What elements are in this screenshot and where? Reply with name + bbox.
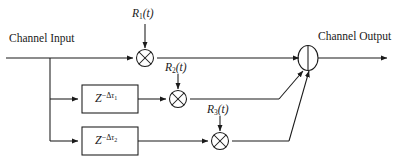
r1-label: R1(t) (132, 8, 154, 21)
delay2-exponent: −Δτ2 (102, 133, 118, 142)
delay1-exp-sign: −Δ (102, 91, 112, 100)
channel-input-label: Channel Input (9, 33, 74, 45)
delay-block-1-label: Z−Δτ1 (95, 92, 117, 104)
r3-symbol: R (207, 103, 214, 115)
wire-mult2-diagonal-to-sum (279, 71, 303, 99)
delay1-base: Z (95, 91, 102, 105)
channel-output-label: Channel Output (318, 31, 391, 43)
channel-model-diagram: Channel Input Channel Output R1(t) R2(t)… (0, 0, 409, 164)
diagram-canvas (0, 0, 409, 164)
delay2-exp-sign: −Δ (102, 133, 112, 142)
wire-mult3-diagonal-to-sum (289, 71, 309, 141)
r3-argument: (t) (218, 103, 229, 115)
delay2-exp-subscript: 2 (114, 137, 117, 143)
delay-block-2-label: Z−Δτ2 (95, 134, 117, 146)
delay2-base: Z (95, 133, 102, 147)
r3-label: R3(t) (207, 104, 229, 117)
r1-symbol: R (132, 7, 139, 19)
r2-label: R2(t) (165, 62, 187, 75)
delay1-exp-subscript: 1 (114, 95, 117, 101)
r2-symbol: R (165, 61, 172, 73)
r2-argument: (t) (176, 61, 187, 73)
delay1-exponent: −Δτ1 (102, 91, 118, 100)
r1-argument: (t) (143, 7, 154, 19)
